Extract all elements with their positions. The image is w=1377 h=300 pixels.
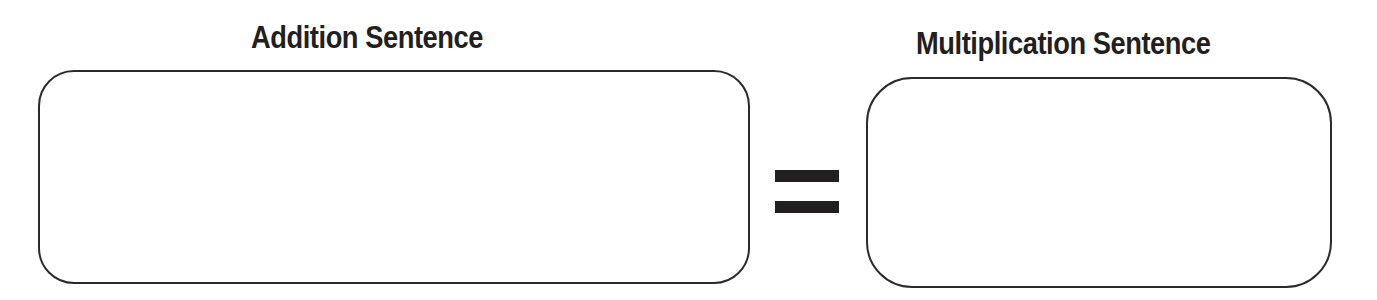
equals-top-bar: [775, 170, 839, 182]
multiplication-sentence-heading: Multiplication Sentence: [916, 26, 1211, 62]
equals-bottom-bar: [775, 201, 839, 213]
equals-sign-icon: [775, 170, 839, 214]
multiplication-sentence-answer-box[interactable]: [866, 77, 1332, 288]
addition-sentence-answer-box[interactable]: [38, 70, 750, 284]
addition-sentence-heading: Addition Sentence: [251, 20, 483, 56]
